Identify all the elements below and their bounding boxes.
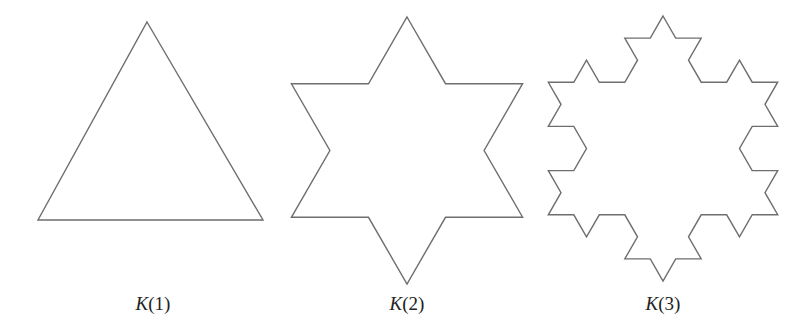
label-k1-arg: 1 xyxy=(155,293,165,314)
label-k1-name: K xyxy=(136,293,149,314)
label-k2-arg: 2 xyxy=(409,293,419,314)
label-k3-arg: 3 xyxy=(665,293,675,314)
koch-k3-snowflake xyxy=(548,16,777,281)
label-k2-name: K xyxy=(390,293,403,314)
label-k3: K(3) xyxy=(646,293,681,315)
koch-k1-triangle xyxy=(38,22,263,220)
koch-k2-star xyxy=(291,17,522,284)
label-k2: K(2) xyxy=(390,293,425,315)
koch-snowflake-diagram xyxy=(0,0,806,335)
label-k1: K(1) xyxy=(136,293,171,315)
label-k3-name: K xyxy=(646,293,659,314)
